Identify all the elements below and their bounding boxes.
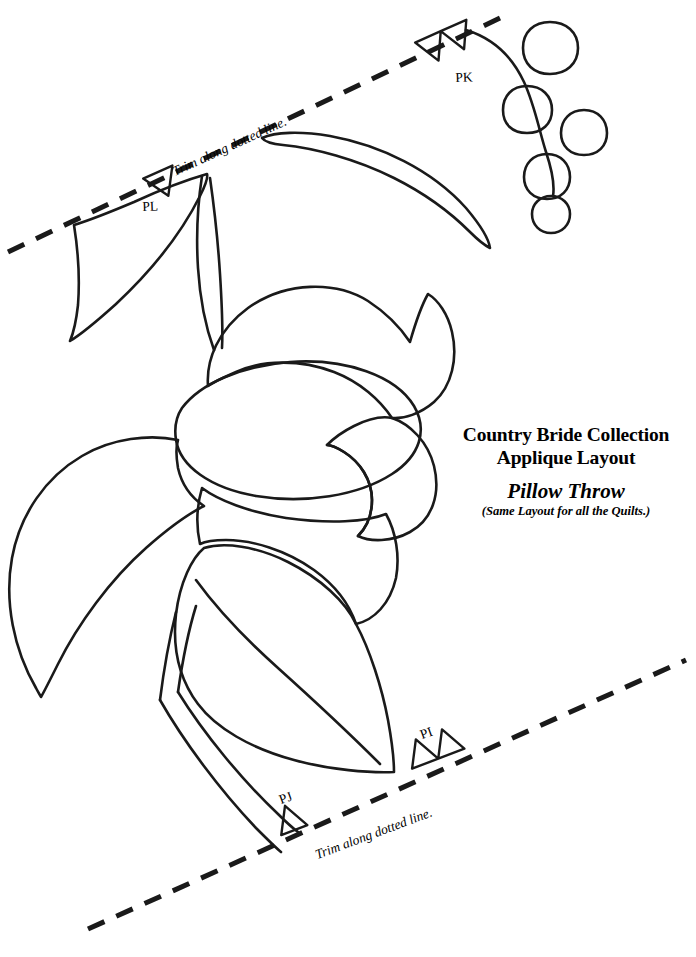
berry-cluster [466,22,607,233]
main-stem [197,176,222,350]
left-leaf [9,437,204,697]
marker-label-pk: PK [455,69,473,86]
upper-right-leaf [262,133,490,248]
left-leaf-outline [9,437,204,697]
main-stem-left-edge [197,176,214,350]
marker-label-pl: PL [142,198,158,215]
berry-3 [561,110,607,155]
flower-petal-center-outline [175,361,420,499]
marker-triangle-pk [415,20,477,67]
lower-stem-right-edge [178,692,298,832]
berry-1 [523,22,578,74]
lower-leaf-outline [175,545,394,772]
pattern-page: Trim along dotted line. Trim along dotte… [0,0,696,957]
upper-right-leaf-outline [262,133,490,248]
registration-markers [143,20,477,835]
layout-note: (Same Layout for all the Quilts.) [438,504,694,518]
layout-subtitle: Applique Layout [438,447,694,469]
lower-leaf-vein [196,580,380,764]
berry-4 [524,154,570,199]
flower-petal-lower-outline [198,488,398,624]
collection-title: Country Bride Collection [438,424,694,446]
berry-5 [532,196,570,233]
flower-petal-lower [198,488,398,624]
flower-petal-top-outline [208,287,454,418]
lower-stem-joint-2 [178,606,196,692]
upper-left-leaf [70,174,207,341]
lower-stem-left-edge [160,700,281,852]
lower-stem [160,606,298,852]
main-stem-right-edge [210,178,222,348]
title-block: Country Bride Collection Applique Layout… [438,424,694,518]
lower-stem-joint [160,612,176,700]
lower-leaf [175,545,394,772]
upper-left-leaf-outline [70,174,207,341]
flower-petal-center [175,361,420,499]
berry-stem [466,30,554,196]
trim-line-bottom [88,660,686,929]
product-name: Pillow Throw [438,480,694,504]
marker-triangle-pj [272,801,307,835]
flower-petal-top [208,287,454,418]
